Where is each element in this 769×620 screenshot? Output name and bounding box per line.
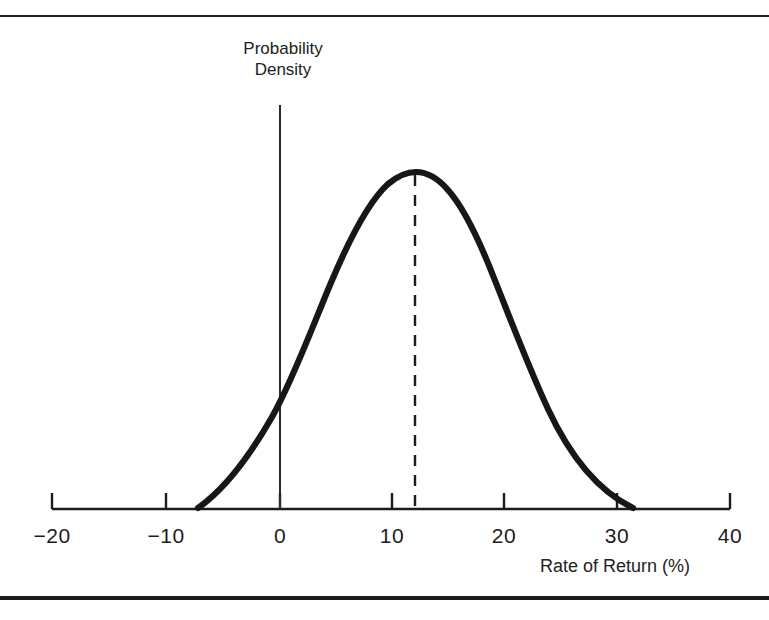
figure-page: as a Normal Distribution Probability Den… [0,0,769,620]
x-tick-label-10: 10 [362,524,422,548]
x-tick-label--10: −10 [136,524,196,548]
x-tick-label-0: 0 [250,524,310,548]
x-axis-label: Rate of Return (%) [540,556,690,577]
y-axis-label-line1: Probability [243,39,322,58]
y-axis-label: Probability Density [228,38,338,80]
x-tick-label-20: 20 [474,524,534,548]
y-axis-label-line2: Density [255,60,312,79]
x-tick-label-30: 30 [587,524,647,548]
x-tick-label--20: −20 [22,524,82,548]
x-tick-label-40: 40 [700,524,760,548]
